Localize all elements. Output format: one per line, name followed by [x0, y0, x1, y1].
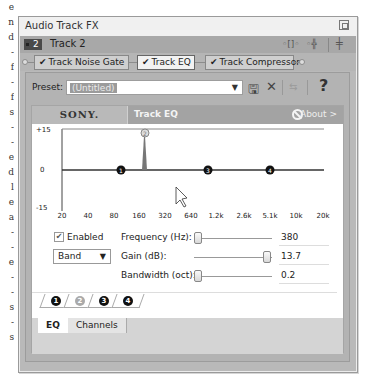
x-label: 320 [158, 212, 171, 220]
tab-eq[interactable]: EQ [38, 318, 68, 333]
save-icon[interactable]: 🖫 [248, 79, 259, 101]
bottom-tab-bar: EQ Channels [32, 318, 343, 354]
plugin-name: Track EQ [134, 109, 178, 119]
track-name: Track 2 [50, 38, 86, 49]
chain-line [129, 62, 137, 63]
x-label: 2.6k [236, 212, 251, 220]
chevron-down-icon[interactable]: ▼ [100, 250, 106, 263]
tab-channels[interactable]: Channels [68, 318, 127, 333]
svg-text:4: 4 [268, 167, 272, 174]
plugin-header: SONY. Track EQ About > [32, 106, 343, 124]
filter-type-value: Band [58, 251, 81, 261]
preset-value: (Untitled) [70, 83, 117, 93]
divider [328, 38, 329, 52]
eq-graph[interactable]: +15 0 -15 1 2 3 4 [32, 124, 343, 224]
bandwidth-slider-track[interactable] [194, 276, 272, 277]
bandwidth-value[interactable]: 0.2 [279, 270, 329, 284]
plugin-chain-icon[interactable]: ◦[]◦ [282, 39, 300, 49]
title-bar[interactable]: Audio Track FX [19, 17, 357, 36]
compare-icon[interactable]: ⇆ [289, 81, 297, 92]
check-icon[interactable]: ✔ [142, 57, 150, 67]
chain-end-connector [299, 59, 305, 65]
frequency-label: Frequency (Hz): [121, 232, 192, 242]
help-icon[interactable]: ? [319, 76, 328, 95]
x-label: 160 [132, 212, 145, 220]
gain-value[interactable]: 13.7 [279, 251, 329, 265]
band-1-icon[interactable]: 1 [51, 296, 61, 306]
preset-dropdown[interactable]: (Untitled) ▼ [66, 80, 243, 95]
svg-text:2: 2 [143, 130, 147, 137]
frequency-slider-thumb[interactable] [194, 232, 202, 244]
svg-text:3: 3 [206, 167, 210, 174]
fx-noise-gate-button[interactable]: ✔Track Noise Gate [34, 55, 129, 70]
restore-icon[interactable] [339, 20, 349, 30]
bandwidth-slider-thumb[interactable] [194, 270, 202, 282]
svg-text:1: 1 [119, 167, 123, 174]
about-link[interactable]: About > [300, 109, 337, 119]
x-label: 640 [184, 212, 197, 220]
bandwidth-label: Bandwidth (oct): [121, 270, 196, 280]
band-4-icon[interactable]: 4 [123, 296, 133, 306]
x-label: 20k [317, 212, 330, 220]
x-label: 1.2k [208, 212, 223, 220]
filter-type-select[interactable]: Band ▼ [53, 249, 111, 264]
sony-logo: SONY. [32, 106, 128, 124]
plugin-panel: Preset: (Untitled) ▼ 🖫 ✕ ⇆ ? SONY. Track… [25, 72, 350, 362]
mixer-icon[interactable]: ╪ [336, 37, 343, 50]
fx-label: Track Noise Gate [49, 57, 125, 67]
enabled-checkbox[interactable]: ✔ [54, 232, 64, 242]
track-row: 2 Track 2 ◦[]◦ ◦╬ ╪ [20, 36, 356, 53]
divider [307, 80, 308, 95]
fx-track-eq-button[interactable]: ✔Track EQ [137, 55, 195, 70]
frequency-value[interactable]: 380 [279, 232, 329, 246]
x-label: 80 [110, 212, 119, 220]
track-number-badge: 2 [24, 39, 42, 50]
x-label: 40 [84, 212, 93, 220]
plugin-add-icon[interactable]: ◦╬ [306, 39, 317, 49]
window-title: Audio Track FX [25, 20, 99, 31]
audio-track-fx-window: Audio Track FX 2 Track 2 ◦[]◦ ◦╬ ╪ ✔Trac… [18, 16, 358, 373]
eq-curve-plot: 1 2 3 4 [32, 124, 343, 224]
divider [282, 80, 283, 95]
chain-line [195, 62, 205, 63]
window-body: 2 Track 2 ◦[]◦ ◦╬ ╪ ✔Track Noise Gate ✔T… [20, 36, 356, 371]
divider [32, 292, 337, 293]
fx-label: Track EQ [152, 57, 191, 67]
check-icon[interactable]: ✔ [210, 57, 218, 67]
gain-label: Gain (dB): [121, 251, 167, 261]
x-label: 5.1k [262, 212, 277, 220]
x-label: 20 [58, 212, 67, 220]
gain-slider-thumb[interactable] [263, 251, 271, 263]
background-document-text: end -f- fs- -ed lea --e --s -s [0, 0, 14, 388]
gain-slider-track[interactable] [194, 257, 272, 258]
fx-label: Track Compressor [220, 57, 300, 67]
frequency-slider-track[interactable] [194, 238, 272, 239]
check-icon[interactable]: ✔ [39, 57, 47, 67]
delete-icon[interactable]: ✕ [266, 79, 277, 94]
chevron-down-icon[interactable]: ▼ [232, 83, 238, 92]
enabled-label: Enabled [67, 232, 103, 242]
x-label: 10k [290, 212, 303, 220]
track-eq-plugin: SONY. Track EQ About > +15 0 -15 [31, 105, 344, 353]
band-2-icon[interactable]: 2 [75, 296, 85, 306]
band-3-icon[interactable]: 3 [99, 296, 109, 306]
fx-compressor-button[interactable]: ✔Track Compressor [205, 55, 294, 70]
preset-label: Preset: [32, 82, 63, 92]
fx-chain: ✔Track Noise Gate ✔Track EQ ✔Track Compr… [20, 53, 356, 71]
